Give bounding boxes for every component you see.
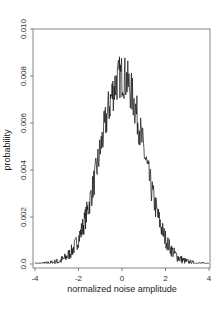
y-axis-label: probability: [2, 129, 12, 171]
x-axis-ticks: -4-2024: [31, 268, 211, 283]
x-tick-label: 0: [120, 274, 125, 283]
y-tick-label: 0.010: [19, 18, 28, 39]
y-tick-label: 0.004: [19, 159, 28, 180]
x-axis-label: normalized noise amplitude: [67, 284, 177, 294]
y-tick-label: 0.008: [19, 65, 28, 86]
data-series-line: [35, 57, 209, 263]
y-tick-label: 0.006: [19, 112, 28, 133]
y-axis-ticks: 0.00.0020.0040.0060.0080.010: [19, 18, 33, 269]
x-tick-label: -2: [75, 274, 83, 283]
x-tick-label: 4: [207, 274, 212, 283]
noise-probability-chart: -4-2024 0.00.0020.0040.0060.0080.010 nor…: [0, 0, 224, 311]
y-tick-label: 0.002: [19, 206, 28, 227]
y-tick-label: 0.0: [19, 258, 28, 270]
x-tick-label: -4: [31, 274, 39, 283]
x-tick-label: 2: [163, 274, 168, 283]
